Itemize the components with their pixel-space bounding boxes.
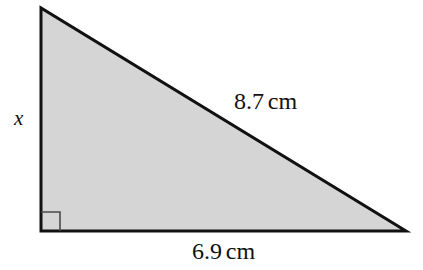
side-label-hypotenuse: 8.7cm [234, 89, 297, 113]
side-label-base: 6.9cm [192, 239, 255, 263]
side-label-x: x [14, 108, 23, 129]
base-value: 6.9 [192, 238, 222, 264]
hypotenuse-value: 8.7 [234, 88, 264, 114]
base-unit: cm [226, 238, 255, 264]
hypotenuse-unit: cm [268, 88, 297, 114]
geometry-figure: x 8.7cm 6.9cm [0, 0, 423, 270]
triangle-shape [41, 8, 406, 231]
triangle-graphic [0, 0, 423, 270]
